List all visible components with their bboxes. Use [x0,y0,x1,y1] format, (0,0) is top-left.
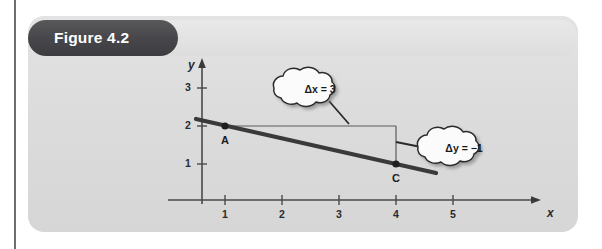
data-point-c [392,160,399,167]
x-tick-label-1: 1 [217,208,233,220]
y-axis [197,58,207,204]
point-label-c: C [388,172,404,184]
x-tick-label-3: 3 [331,208,347,220]
callout-label-delta-y: Δy = −1 [420,131,508,165]
callout-text-delta-x: Δx = 3 [304,83,335,95]
page-margin-rule [14,0,16,249]
data-point-a [221,122,228,129]
callout-text-delta-y: Δy = −1 [445,142,482,154]
figure-panel: Figure 4.2 [28,16,578,232]
x-axis [168,195,541,205]
callout-label-delta-x: Δx = 3 [276,72,364,106]
x-tick-label-5: 5 [445,208,461,220]
x-tick-label-2: 2 [274,208,290,220]
coordinate-plot: 3 2 1 1 2 3 4 5 y x A C Δx = 3 Δy = −1 [28,16,578,232]
y-tick-label-1: 1 [180,157,196,169]
y-tick-label-2: 2 [180,119,196,131]
point-label-a: A [217,134,233,146]
y-tick-label-3: 3 [180,81,196,93]
x-tick-label-4: 4 [388,208,404,220]
x-axis-label: x [547,206,554,220]
y-axis-label: y [188,58,195,72]
plot-line [196,119,436,173]
plot-svg [28,16,578,232]
